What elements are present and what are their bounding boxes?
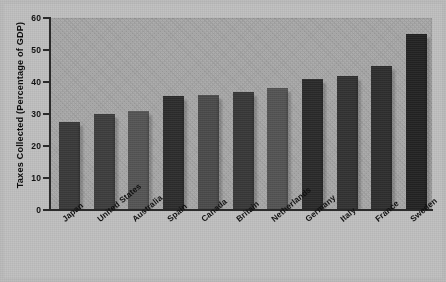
x-label-britain: Britain — [234, 199, 261, 224]
x-axis-category-labels: JapanUnited StatesAustraliaSpainCanadaBr… — [0, 0, 446, 282]
figure: 0102030405060 Taxes Collected (Percentag… — [0, 0, 446, 282]
x-label-italy: Italy — [338, 205, 358, 224]
x-label-spain: Spain — [165, 201, 189, 224]
x-label-japan: Japan — [60, 200, 85, 223]
x-label-australia: Australia — [130, 193, 164, 224]
x-label-canada: Canada — [199, 196, 229, 223]
x-label-france: France — [373, 198, 401, 224]
x-label-germany: Germany — [303, 192, 338, 223]
x-label-sweden: Sweden — [408, 195, 439, 223]
